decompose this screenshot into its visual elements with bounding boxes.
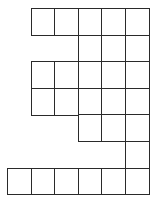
grid-cell bbox=[78, 168, 103, 196]
grid-cell bbox=[78, 35, 103, 63]
grid-cell bbox=[78, 88, 103, 116]
grid-cell bbox=[78, 61, 103, 89]
grid-cell bbox=[125, 141, 150, 169]
grid-cell bbox=[54, 88, 79, 116]
grid-cell bbox=[31, 88, 56, 116]
grid-cell bbox=[101, 8, 126, 36]
grid-cell bbox=[54, 168, 79, 196]
grid-cell bbox=[78, 8, 103, 36]
grid-cell bbox=[125, 8, 150, 36]
grid-cell bbox=[125, 61, 150, 89]
grid-cell bbox=[125, 114, 150, 142]
grid-cell bbox=[101, 114, 126, 142]
grid-cell bbox=[31, 61, 56, 89]
grid-cell bbox=[7, 168, 32, 196]
grid-cell bbox=[31, 168, 56, 196]
grid-cell bbox=[101, 61, 126, 89]
grid-cell bbox=[78, 114, 103, 142]
grid-cell bbox=[31, 8, 56, 36]
grid-cell bbox=[125, 168, 150, 196]
grid-cell bbox=[125, 88, 150, 116]
grid-cell bbox=[54, 61, 79, 89]
grid-cell bbox=[101, 88, 126, 116]
square-grid-figure bbox=[0, 0, 156, 204]
grid-cell bbox=[101, 168, 126, 196]
grid-cell bbox=[54, 8, 79, 36]
grid-cell bbox=[101, 35, 126, 63]
grid-cell bbox=[125, 35, 150, 63]
